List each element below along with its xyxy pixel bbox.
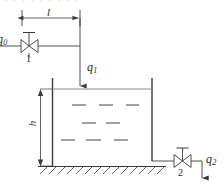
height-arrow-top — [38, 89, 43, 96]
valve-1-right-triangle — [29, 40, 38, 53]
outlet-pipe-group — [152, 161, 202, 178]
valve-2-right-triangle — [183, 155, 192, 168]
hatch-tick — [139, 167, 146, 174]
length-dimension-group — [22, 10, 80, 26]
label-q1: q1 — [87, 61, 97, 75]
valve-2-symbol — [174, 148, 191, 168]
tank-body — [53, 78, 153, 166]
hatch-tick — [157, 167, 164, 174]
valve-2-left-triangle — [174, 155, 183, 168]
label-q1-sub: 1 — [93, 66, 97, 75]
hatch-tick — [49, 167, 56, 174]
ground-hatching — [40, 167, 164, 174]
hatch-tick — [130, 167, 137, 174]
hatch-tick — [40, 167, 47, 174]
ground-group — [38, 167, 166, 175]
water-dashes-group — [61, 105, 139, 140]
hatch-tick — [148, 167, 155, 174]
height-dimension-group — [38, 89, 52, 166]
label-q2: q2 — [206, 153, 216, 167]
valve-1-left-triangle — [21, 40, 29, 53]
hatch-tick — [58, 167, 65, 174]
label-q0-sub: 0 — [3, 38, 7, 47]
hatch-tick — [76, 167, 83, 174]
schematic-canvas — [0, 0, 224, 188]
hatch-tick — [112, 167, 119, 174]
label-length-dimension: l — [47, 7, 50, 18]
hatch-tick — [121, 167, 128, 174]
label-valve-2: 2 — [178, 168, 183, 178]
hatch-tick — [67, 167, 74, 174]
hatch-tick — [85, 167, 92, 174]
label-q2-sub: 2 — [212, 158, 216, 167]
height-arrow-bottom — [38, 160, 43, 167]
hatch-tick — [103, 167, 110, 174]
label-valve-1: 1 — [26, 54, 31, 64]
tank-system-diagram: · · · · · · · · · — [0, 0, 224, 188]
label-q0: q0 — [0, 33, 7, 47]
hatch-tick — [94, 167, 101, 174]
label-height-dimension: h — [27, 121, 38, 127]
